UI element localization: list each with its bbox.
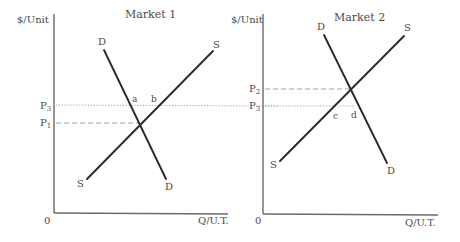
point-d-label: d — [351, 110, 357, 120]
market-2-y-axis-label: $/Unit — [231, 14, 263, 25]
p3-dotted-line — [56, 105, 278, 106]
market-1-panel: Market 1 $/Unit 0 Q/U.T. P3 P1 D D S S a… — [17, 8, 278, 226]
market-2-x-axis-label: Q/U.T. — [405, 217, 436, 228]
market-2-panel: Market 2 $/Unit 0 Q/U.T. P2 P3 D D S S c… — [231, 11, 438, 228]
market-1-x-axis — [54, 213, 228, 214]
market-1-supply-curve — [87, 51, 213, 179]
point-a-label: a — [132, 94, 138, 104]
market-1-p3-label: P3 — [40, 100, 51, 113]
market-1-x-axis-label: Q/U.T. — [198, 215, 229, 226]
market-2-origin-label: 0 — [255, 215, 261, 226]
market-2-title: Market 2 — [334, 11, 385, 24]
two-market-diagram: Market 1 $/Unit 0 Q/U.T. P3 P1 D D S S a… — [0, 0, 460, 242]
market-2-p2-label: P2 — [249, 83, 260, 96]
market-1-demand-label-bottom: D — [165, 181, 173, 192]
market-1-y-axis-label: $/Unit — [17, 14, 49, 25]
market-1-origin-label: 0 — [44, 215, 50, 226]
market-2-demand-curve — [324, 35, 387, 163]
point-c-label: c — [333, 111, 338, 121]
market-1-title: Market 1 — [125, 8, 176, 21]
market-2-supply-curve — [280, 36, 404, 161]
market-1-supply-label-bottom: S — [77, 178, 84, 189]
point-b-label: b — [151, 94, 157, 104]
market-1-p1-label: P1 — [40, 117, 51, 130]
market-1-supply-label-top: S — [213, 39, 220, 50]
market-2-supply-label-bottom: S — [270, 159, 277, 170]
market-2-demand-label-top: D — [317, 21, 325, 32]
market-2-supply-label-top: S — [404, 22, 411, 33]
market-2-demand-label-bottom: D — [387, 165, 395, 176]
market-2-p3-label: P3 — [249, 100, 260, 113]
market-1-demand-label-top: D — [98, 36, 106, 47]
market-2-x-axis — [263, 214, 438, 215]
market-1-demand-curve — [104, 50, 166, 179]
